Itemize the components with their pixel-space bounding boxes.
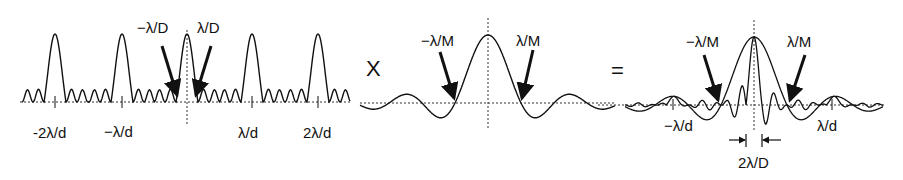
label-width-2lambda-over-D: 2λ/D bbox=[738, 155, 769, 170]
arrow-minus-lambda-M bbox=[440, 52, 454, 98]
arrow-minus-lambda-D bbox=[162, 46, 177, 95]
diffraction-diagram bbox=[0, 0, 903, 180]
label-minus-lambda-over-M: −λ/M bbox=[421, 33, 454, 48]
label-minus-lambda-over-d: −λ/d bbox=[104, 124, 133, 139]
arrow-minus-lambda-M bbox=[704, 55, 718, 100]
label-2lambda-over-d: 2λ/d bbox=[303, 125, 331, 140]
arrow-lambda-D bbox=[196, 46, 211, 95]
arrow-lambda-M bbox=[790, 55, 805, 100]
grating-panel bbox=[20, 30, 352, 124]
times-operator: X bbox=[366, 58, 381, 80]
label-lambda-over-D: λ/D bbox=[197, 20, 220, 35]
label-lambda-over-M: λ/M bbox=[787, 34, 811, 49]
width-indicator bbox=[729, 134, 781, 147]
label-minus-lambda-over-M: −λ/M bbox=[686, 34, 719, 49]
envelope-panel bbox=[360, 18, 616, 130]
equals-operator: = bbox=[611, 60, 624, 82]
grating-curve bbox=[22, 34, 350, 102]
label-lambda-over-d: λ/d bbox=[817, 118, 837, 133]
label-minus-lambda-over-D: −λ/D bbox=[137, 20, 168, 35]
label-minus-2lambda-over-d: -2λ/d bbox=[33, 125, 66, 140]
label-lambda-over-M: λ/M bbox=[516, 33, 540, 48]
product-panel bbox=[598, 20, 885, 147]
arrow-lambda-M bbox=[522, 50, 533, 98]
label-minus-lambda-over-d: −λ/d bbox=[664, 118, 693, 133]
label-lambda-over-d: λ/d bbox=[238, 125, 258, 140]
